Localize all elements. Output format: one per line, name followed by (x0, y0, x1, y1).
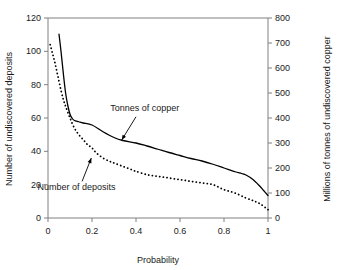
annotation-label: Tonnes of copper (110, 103, 179, 113)
x-tick-label: 0.4 (130, 226, 143, 236)
y2-tick-label: 300 (275, 138, 290, 148)
y-tick-label: 60 (31, 113, 41, 123)
x-tick-label: 1 (265, 226, 270, 236)
y-tick-label: 0 (36, 213, 41, 223)
y2-axis-title: Millions of tonnes of undiscovered coppe… (322, 36, 332, 202)
annotation-label: Number of deposits (38, 182, 117, 192)
y2-tick-label: 600 (275, 63, 290, 73)
x-tick-label: 0.6 (174, 226, 187, 236)
x-tick-label: 0.8 (218, 226, 231, 236)
y2-tick-label: 700 (275, 38, 290, 48)
copper-deposits-chart: 00.20.40.60.81 020406080100120 010020030… (0, 0, 337, 270)
y2-tick-labels: 0100200300400500600700800 (275, 13, 290, 223)
chart-figure: 00.20.40.60.81 020406080100120 010020030… (0, 0, 337, 270)
y-axis-title: Number of undiscovered deposits (4, 51, 14, 186)
y2-tick-label: 200 (275, 163, 290, 173)
y-tick-label: 40 (31, 146, 41, 156)
y2-tick-label: 400 (275, 113, 290, 123)
x-tick-label: 0 (45, 226, 50, 236)
y-tick-label: 120 (26, 13, 41, 23)
y2-tick-label: 100 (275, 188, 290, 198)
x-axis-title: Probability (137, 255, 180, 265)
x-tick-label: 0.2 (86, 226, 99, 236)
y2-tick-label: 500 (275, 88, 290, 98)
y-tick-label: 80 (31, 80, 41, 90)
y-tick-label: 100 (26, 46, 41, 56)
y2-tick-label: 800 (275, 13, 290, 23)
y2-tick-label: 0 (275, 213, 280, 223)
